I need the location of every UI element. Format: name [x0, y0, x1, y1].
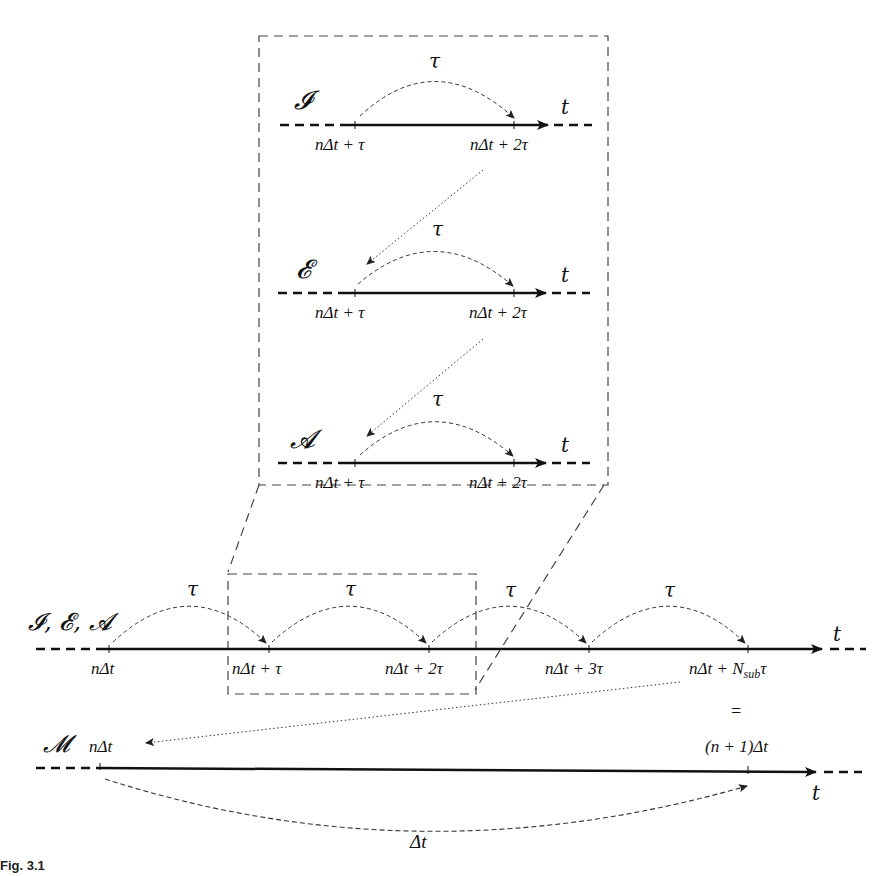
row-E: [278, 251, 590, 297]
row-A-axis: t: [561, 433, 570, 457]
sub-step-4: τ: [664, 578, 676, 602]
equals-sign: =: [730, 701, 742, 721]
row-I-tick-2: nΔt + 2τ: [470, 135, 529, 154]
macro-step: Δt: [409, 831, 427, 852]
row-I-step: τ: [429, 49, 441, 73]
macro-axis: t: [812, 781, 821, 805]
multirate-time-diagram: 𝓘 τ t nΔt + τ nΔt + 2τ 𝓔 τ t nΔt + τ nΔt…: [0, 0, 886, 876]
row-E-label: 𝓔: [296, 254, 318, 284]
row-A: [278, 422, 590, 467]
row-I: [280, 81, 592, 129]
row-A-tick-2: nΔt + 2τ: [469, 473, 528, 492]
sub-step-2: τ: [345, 577, 357, 601]
sub-tick-1: nΔt + τ: [232, 659, 282, 678]
row-I-axis: t: [561, 95, 570, 119]
sub-timeline: [36, 606, 866, 653]
sub-tick-4-subscript: sub: [744, 667, 761, 681]
sub-step-1: τ: [187, 577, 199, 601]
link-E-to-A: [367, 339, 483, 436]
sub-tick-4: nΔt + Nsubτ: [689, 659, 767, 681]
row-E-tick-1: nΔt + τ: [315, 303, 365, 322]
row-E-tick-2: nΔt + 2τ: [469, 303, 528, 322]
sub-timeline-axis: t: [833, 622, 842, 646]
sub-step-3: τ: [505, 578, 517, 602]
row-E-axis: t: [561, 263, 570, 287]
sub-tick-3: nΔt + 3τ: [545, 659, 604, 678]
row-A-step: τ: [432, 387, 444, 411]
sub-tick-2: nΔt + 2τ: [385, 659, 444, 678]
row-I-tick-1: nΔt + τ: [315, 135, 365, 154]
link-I-to-E: [367, 170, 483, 264]
row-A-tick-1: nΔt + τ: [315, 473, 365, 492]
macro-label: 𝓜: [43, 730, 77, 758]
sub-tick-4-tail: τ: [760, 659, 767, 678]
row-A-label: 𝓐: [290, 424, 323, 454]
macro-end-tick: (n + 1)Δt: [705, 737, 769, 756]
row-I-label: 𝓘: [294, 85, 320, 115]
row-E-step: τ: [432, 217, 444, 241]
figure-caption: Fig. 3.1: [0, 858, 45, 873]
macro-timeline: [36, 763, 862, 831]
link-sub-to-macro: [146, 682, 680, 743]
sub-tick-4-main: nΔt + N: [689, 659, 745, 678]
sub-tick-0: nΔt: [91, 659, 115, 678]
sub-timeline-label: 𝓘, 𝓔, 𝓐: [28, 608, 120, 636]
macro-start-tick: nΔt: [89, 737, 113, 756]
